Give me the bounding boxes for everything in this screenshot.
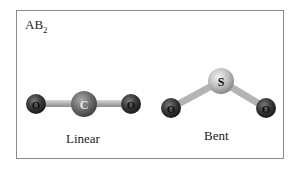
bent-molecule: S O O — [161, 68, 276, 118]
atom-symbol: O — [262, 103, 271, 115]
molecule-diagrams: O C O S O O — [0, 0, 298, 169]
linear-molecule: O C O — [26, 91, 141, 117]
atom-symbol: O — [127, 99, 136, 111]
atom-symbol: O — [32, 99, 41, 111]
atom-symbol: C — [80, 98, 89, 112]
atom-symbol: O — [167, 103, 176, 115]
bent-label: Bent — [204, 128, 229, 144]
atom-symbol: S — [218, 75, 225, 89]
linear-label: Linear — [66, 131, 100, 147]
